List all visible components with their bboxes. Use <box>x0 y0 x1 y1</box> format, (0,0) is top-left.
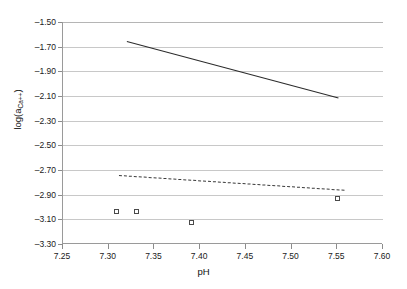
y-tick-mark <box>58 195 62 196</box>
x-tick-mark <box>62 244 63 249</box>
x-tick-mark <box>153 244 154 249</box>
data-point-marker <box>134 209 139 214</box>
x-tick-label: 7.60 <box>362 251 402 261</box>
x-tick-label: 7.30 <box>88 251 128 261</box>
data-point-marker <box>335 196 340 201</box>
y-tick-mark <box>58 121 62 122</box>
x-tick-label: 7.40 <box>179 251 219 261</box>
y-tick-label: –1.50 <box>22 18 56 26</box>
y-tick-label: –2.50 <box>22 141 56 149</box>
y-tick-label: –1.90 <box>22 67 56 75</box>
dashed-trend-line <box>119 175 345 191</box>
x-tick-label: 7.45 <box>225 251 265 261</box>
gridline <box>63 121 383 122</box>
y-tick-mark <box>58 170 62 171</box>
plot-area <box>62 22 382 244</box>
gridline <box>63 22 383 23</box>
y-tick-mark <box>58 96 62 97</box>
x-tick-label: 7.35 <box>133 251 173 261</box>
gridline <box>63 219 383 220</box>
gridline <box>63 170 383 171</box>
y-tick-label: –2.10 <box>22 92 56 100</box>
y-tick-label: –1.70 <box>22 43 56 51</box>
chart-container: –1.50–1.70–1.90–2.10–2.30–2.50–2.70–2.90… <box>0 0 407 289</box>
y-tick-label: –3.10 <box>22 215 56 223</box>
x-tick-mark <box>336 244 337 249</box>
x-tick-mark <box>108 244 109 249</box>
gridline <box>63 47 383 48</box>
y-tick-label: –2.70 <box>22 166 56 174</box>
y-axis-title: log(aCa++) <box>12 55 23 165</box>
x-tick-mark <box>291 244 292 249</box>
solid-trend-line <box>127 41 338 98</box>
y-tick-mark <box>58 145 62 146</box>
x-tick-mark <box>245 244 246 249</box>
y-tick-mark <box>58 219 62 220</box>
gridline <box>63 145 383 146</box>
y-tick-mark <box>58 22 62 23</box>
y-tick-label: –2.30 <box>22 117 56 125</box>
x-tick-label: 7.55 <box>316 251 356 261</box>
y-tick-label: –2.90 <box>22 191 56 199</box>
x-tick-mark <box>382 244 383 249</box>
x-tick-label: 7.50 <box>271 251 311 261</box>
y-tick-label: –3.30 <box>22 240 56 248</box>
y-tick-mark <box>58 47 62 48</box>
data-point-marker <box>189 220 194 225</box>
x-tick-mark <box>199 244 200 249</box>
y-tick-mark <box>58 71 62 72</box>
gridline <box>63 71 383 72</box>
data-point-marker <box>114 209 119 214</box>
x-tick-label: 7.25 <box>42 251 82 261</box>
x-axis-title: pH <box>0 266 407 277</box>
